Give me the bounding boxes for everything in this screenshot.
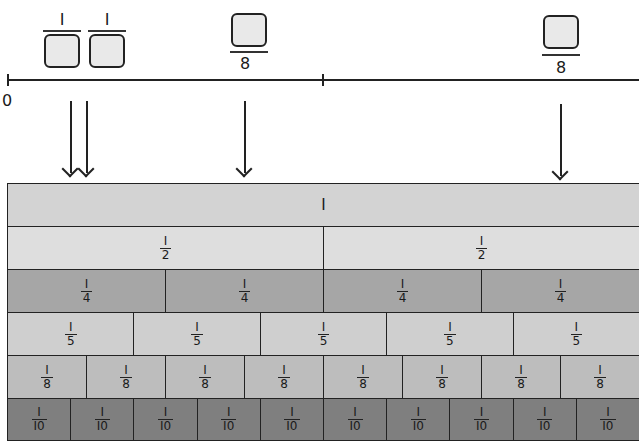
- fraction-text: II0: [537, 406, 552, 433]
- fraction-text: II0: [158, 406, 173, 433]
- denominator-answer-box[interactable]: [89, 34, 125, 68]
- denominator: 8: [436, 377, 448, 391]
- wall-cell: I5: [513, 313, 639, 355]
- wall-cell: I8: [244, 356, 323, 398]
- numerator: I: [43, 364, 51, 377]
- numerator: I: [162, 235, 170, 248]
- numerator: I: [193, 321, 201, 334]
- numerator: I: [399, 278, 407, 291]
- wall-cell: I4: [323, 270, 481, 312]
- numerator-answer-box[interactable]: [543, 15, 579, 49]
- numerator: I: [573, 321, 581, 334]
- fraction-bar: [230, 51, 268, 53]
- denominator: 5: [65, 334, 77, 348]
- denominator: I0: [600, 419, 615, 433]
- wall-cell: II0: [449, 399, 512, 440]
- arrow-down-icon: [86, 101, 88, 173]
- denominator: I0: [221, 419, 236, 433]
- fraction-wall: I I2I2 I4I4I4I4 I5I5I5I5I5 I8I8I8I8I8I8I…: [7, 183, 639, 441]
- fraction-text: II0: [474, 406, 489, 433]
- fraction-text: I8: [357, 364, 369, 391]
- wall-row-halves: I2I2: [7, 226, 639, 269]
- wall-cell: I8: [7, 356, 86, 398]
- numerator: I: [596, 364, 604, 377]
- numerator-answer-box[interactable]: [231, 13, 267, 47]
- fraction-text: I: [319, 199, 327, 212]
- fraction-text: II0: [411, 406, 426, 433]
- denominator: 4: [239, 291, 251, 305]
- wall-cell: I4: [481, 270, 639, 312]
- arrow-down-icon: [244, 101, 246, 173]
- wall-cell: I5: [386, 313, 512, 355]
- numerator: I: [359, 364, 367, 377]
- fraction-text: I8: [278, 364, 290, 391]
- denominator: I0: [348, 419, 363, 433]
- wall-cell: II0: [386, 399, 449, 440]
- wall-cell: II0: [70, 399, 133, 440]
- fraction-bar: [43, 30, 81, 32]
- fraction-text: II0: [600, 406, 615, 433]
- fraction-text: I2: [160, 235, 172, 262]
- wall-cell: I5: [133, 313, 259, 355]
- wall-row-quarters: I4I4I4I4: [7, 269, 639, 312]
- fraction-text: I8: [594, 364, 606, 391]
- denominator: 8: [357, 377, 369, 391]
- wall-row-fifths: I5I5I5I5I5: [7, 312, 639, 355]
- numerator: I: [517, 364, 525, 377]
- fraction-text: I5: [191, 321, 203, 348]
- numerator: I: [280, 364, 288, 377]
- wall-cell: I8: [402, 356, 481, 398]
- denominator: I0: [284, 419, 299, 433]
- numerator: I: [225, 406, 233, 419]
- denominator: 2: [476, 248, 488, 262]
- wall-cell: II0: [576, 399, 639, 440]
- denominator: 4: [81, 291, 93, 305]
- wall-cell: II0: [197, 399, 260, 440]
- numerator: I: [319, 199, 327, 212]
- numerator: I: [478, 235, 486, 248]
- denominator: 8: [594, 377, 606, 391]
- arrow-down-icon: [560, 104, 562, 176]
- wall-cell: I8: [560, 356, 639, 398]
- denominator: 8: [236, 56, 254, 72]
- denominator-answer-box[interactable]: [44, 34, 80, 68]
- fraction-text: I5: [571, 321, 583, 348]
- denominator: 4: [555, 291, 567, 305]
- wall-cell: II0: [323, 399, 386, 440]
- numerator: I: [478, 406, 486, 419]
- fraction-text: II0: [348, 406, 363, 433]
- arrow-down-icon: [70, 101, 72, 173]
- fraction-text: I8: [199, 364, 211, 391]
- numerator: I: [241, 278, 249, 291]
- fraction-text: I8: [120, 364, 132, 391]
- denominator: I0: [158, 419, 173, 433]
- fraction-bar: [88, 30, 126, 32]
- wall-cell: I5: [260, 313, 386, 355]
- denominator: I0: [95, 419, 110, 433]
- denominator: 5: [191, 334, 203, 348]
- numerator: I: [122, 364, 130, 377]
- denominator: 5: [444, 334, 456, 348]
- denominator: I0: [411, 419, 426, 433]
- numerator: I: [438, 364, 446, 377]
- wall-cell: I8: [481, 356, 560, 398]
- numerator: I: [351, 406, 359, 419]
- wall-cell: I2: [323, 227, 639, 269]
- wall-cell: I5: [7, 313, 133, 355]
- denominator: 8: [41, 377, 53, 391]
- denominator: 8: [120, 377, 132, 391]
- wall-cell: II0: [7, 399, 70, 440]
- denominator: 2: [160, 248, 172, 262]
- fraction-text: I5: [65, 321, 77, 348]
- wall-cell: I4: [7, 270, 165, 312]
- fraction-text: I4: [397, 278, 409, 305]
- wall-cell: I4: [165, 270, 323, 312]
- numerator: I: [557, 278, 565, 291]
- numerator: I: [162, 406, 170, 419]
- denominator: 8: [278, 377, 290, 391]
- fraction-bar: [542, 54, 580, 56]
- wall-cell: I8: [86, 356, 165, 398]
- denominator: I0: [474, 419, 489, 433]
- fraction-text: II0: [284, 406, 299, 433]
- fraction-text: II0: [95, 406, 110, 433]
